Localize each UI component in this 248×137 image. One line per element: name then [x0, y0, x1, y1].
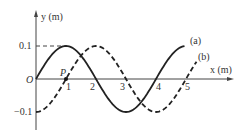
x-tick-4: 4: [156, 81, 161, 92]
x-tick-1: 1: [66, 81, 71, 92]
x-axis-arrow-icon: [227, 77, 234, 81]
y-axis-label: y (m): [41, 11, 63, 23]
wave-diagram: y (m) x (m) O P 0.1 −0.1 1 2 3 4 5 (a) (…: [0, 0, 248, 137]
curve-a-label: (a): [190, 35, 201, 47]
wave-plot: y (m) x (m) O P 0.1 −0.1 1 2 3 4 5 (a) (…: [0, 0, 248, 137]
x-axis-label: x (m): [210, 64, 232, 76]
x-tick-5: 5: [185, 81, 190, 92]
y-tick-neg: −0.1: [14, 106, 32, 117]
point-p-label: P: [59, 67, 66, 78]
curve-b-label: (b): [198, 51, 210, 63]
y-tick-pos: 0.1: [19, 40, 32, 51]
x-tick-2: 2: [90, 81, 95, 92]
x-tick-3: 3: [120, 81, 125, 92]
origin-label: O: [26, 74, 33, 85]
y-axis-arrow-icon: [34, 10, 38, 17]
